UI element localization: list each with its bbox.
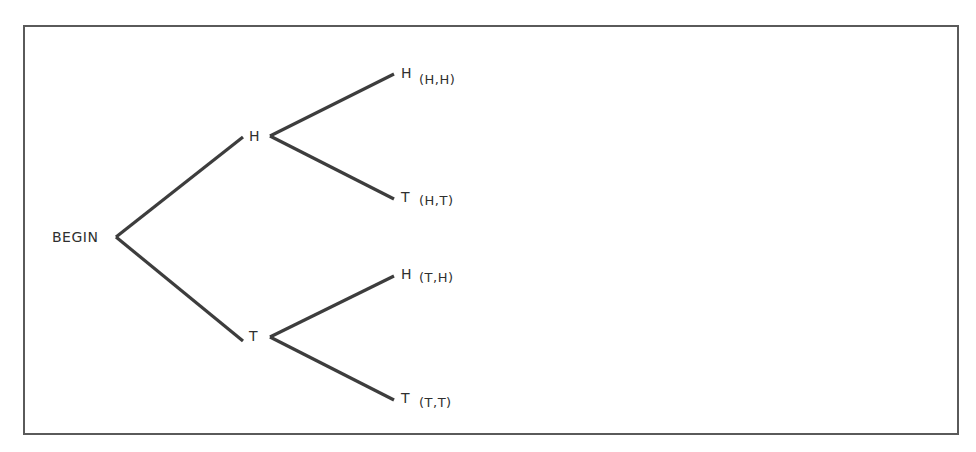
leaf-outcome-label: (T,T) — [419, 396, 452, 409]
edge-t-to-tt — [270, 337, 394, 400]
edge-h-to-hh — [270, 74, 394, 136]
leaf-outcome-label: (H,H) — [419, 73, 455, 86]
leaf-outcome-label: (H,T) — [419, 194, 454, 207]
edge-h-to-ht — [270, 136, 394, 199]
root-node-label: BEGIN — [52, 230, 98, 244]
leaf-node-label: H — [401, 66, 412, 80]
level1-node-t-label: T — [249, 329, 258, 343]
leaf-node-label: T — [401, 190, 410, 204]
leaf-node-label: T — [401, 391, 410, 405]
leaf-outcome-label: (T,H) — [419, 271, 454, 284]
edge-begin-to-h — [116, 137, 243, 237]
edge-begin-to-t — [116, 237, 243, 341]
leaf-node-label: H — [401, 267, 412, 281]
level1-node-h-label: H — [249, 129, 260, 143]
edge-t-to-th — [270, 276, 394, 337]
tree-edges — [0, 0, 976, 452]
